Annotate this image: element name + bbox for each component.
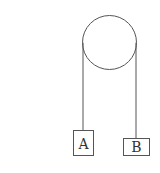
block-a-label: A — [77, 136, 89, 152]
pulley-wheel — [83, 16, 137, 70]
block-b-label: B — [131, 139, 141, 155]
block-b: B — [124, 139, 150, 156]
block-a: A — [74, 131, 94, 156]
pulley-diagram: A B — [0, 0, 160, 173]
